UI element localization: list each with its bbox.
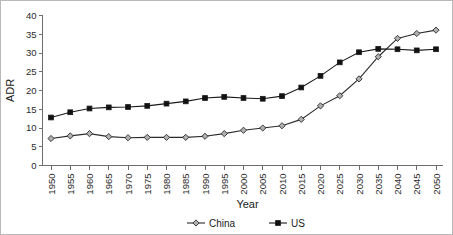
- x-axis-tick-label: 2045: [411, 174, 422, 195]
- y-axis-tick-label: 5: [31, 141, 36, 152]
- x-axis-tick-label: 2000: [238, 174, 249, 195]
- legend-marker-china: [193, 220, 199, 226]
- x-axis-tick-label: 1965: [103, 174, 114, 195]
- data-point-marker: [337, 60, 342, 65]
- y-axis-title: ADR: [4, 79, 16, 102]
- data-point-marker: [376, 46, 381, 51]
- data-point-marker: [49, 115, 54, 120]
- chart-figure: 0510152025303540195019551960196519701975…: [0, 0, 453, 235]
- data-point-marker: [183, 99, 188, 104]
- data-point-marker: [414, 30, 420, 36]
- y-axis-tick-label: 30: [26, 47, 37, 58]
- x-axis-tick-label: 2015: [296, 174, 307, 195]
- data-point-marker: [260, 96, 265, 101]
- data-point-marker: [87, 106, 92, 111]
- x-axis-tick-label: 2005: [257, 174, 268, 195]
- x-axis-tick-label: 2050: [431, 174, 442, 195]
- data-point-marker: [126, 105, 131, 110]
- data-point-marker: [145, 103, 150, 108]
- data-point-marker: [240, 127, 246, 133]
- data-point-marker: [144, 134, 150, 140]
- chart-legend: ChinaUS: [187, 218, 305, 229]
- x-axis-tick-label: 1985: [180, 174, 191, 195]
- legend-label-us[interactable]: US: [291, 218, 305, 229]
- data-point-marker: [203, 96, 208, 101]
- x-axis-tick-label: 1955: [65, 174, 76, 195]
- y-axis-tick-label: 35: [26, 29, 37, 40]
- x-axis-tick-label: 1975: [142, 174, 153, 195]
- data-point-marker: [125, 135, 131, 141]
- y-axis-tick-label: 25: [26, 66, 37, 77]
- x-axis-tick-label: 1960: [84, 174, 95, 195]
- y-axis-tick-label: 10: [26, 122, 37, 133]
- data-point-marker: [260, 125, 266, 131]
- x-axis-tick-label: 1995: [219, 174, 230, 195]
- data-point-marker: [279, 123, 285, 129]
- x-axis-tick-label: 2040: [392, 174, 403, 195]
- x-axis-title: Year: [236, 198, 259, 210]
- series-china: [48, 27, 439, 142]
- x-axis-tick-label: 2030: [354, 174, 365, 195]
- x-axis-tick-label: 2010: [277, 174, 288, 195]
- data-point-marker: [183, 134, 189, 140]
- data-point-marker: [68, 110, 73, 115]
- x-axis-tick-label: 2025: [334, 174, 345, 195]
- data-point-marker: [164, 101, 169, 106]
- data-point-marker: [222, 94, 227, 99]
- x-axis-tick-label: 2035: [373, 174, 384, 195]
- x-axis-tick-label: 1970: [123, 174, 134, 195]
- data-point-marker: [86, 131, 92, 137]
- data-point-marker: [433, 27, 439, 33]
- data-point-marker: [163, 134, 169, 140]
- data-point-marker: [357, 50, 362, 55]
- data-point-marker: [280, 94, 285, 99]
- data-point-marker: [202, 133, 208, 139]
- data-point-marker: [318, 73, 323, 78]
- y-axis-tick-label: 20: [26, 85, 37, 96]
- data-point-marker: [48, 135, 54, 141]
- data-point-marker: [106, 134, 112, 140]
- y-axis-tick-label: 0: [31, 160, 36, 171]
- legend-marker-us: [276, 221, 281, 226]
- data-point-marker: [414, 48, 419, 53]
- data-point-marker: [395, 47, 400, 52]
- x-axis-tick-label: 2020: [315, 174, 326, 195]
- x-axis-tick-label: 1950: [46, 174, 57, 195]
- y-axis-tick-label: 15: [26, 104, 37, 115]
- data-point-marker: [67, 133, 73, 139]
- x-axis-tick-label: 1990: [200, 174, 211, 195]
- data-point-marker: [299, 85, 304, 90]
- data-point-marker: [106, 105, 111, 110]
- y-axis-tick-label: 40: [26, 10, 37, 21]
- data-point-marker: [241, 96, 246, 101]
- legend-label-china[interactable]: China: [209, 218, 236, 229]
- line-chart: 0510152025303540195019551960196519701975…: [1, 1, 453, 235]
- x-axis-tick-label: 1980: [161, 174, 172, 195]
- data-point-marker: [221, 131, 227, 137]
- data-point-marker: [434, 47, 439, 52]
